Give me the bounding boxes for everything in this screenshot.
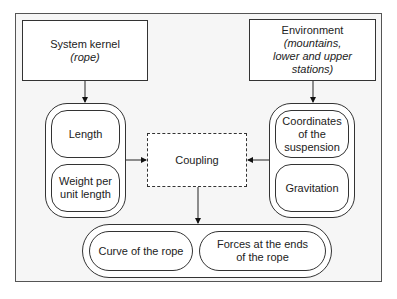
connector-arrows [0, 0, 397, 299]
